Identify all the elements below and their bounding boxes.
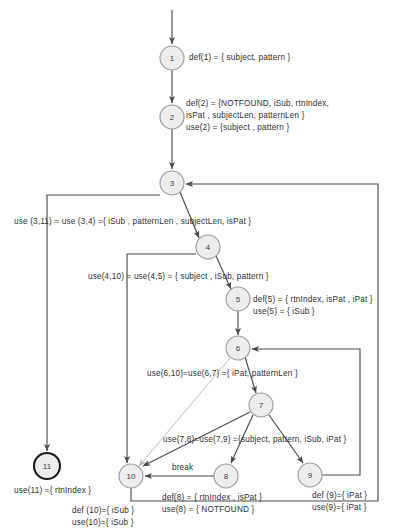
edge-4-to-10 [127, 254, 196, 463]
cfg-canvas: 1 2 3 4 5 6 7 8 [0, 0, 397, 532]
node-9-label: 9 [308, 471, 313, 480]
annotation-use-2: use(2) = {subject , pattern } [186, 122, 289, 134]
node-4-label: 4 [206, 243, 211, 252]
node-6-label: 6 [236, 344, 241, 353]
node-6[interactable]: 6 [226, 336, 250, 360]
node-2-label: 2 [170, 113, 175, 122]
node-11-label: 11 [43, 462, 52, 471]
annotation-def-5: def(5) = { rtnIndex, isPat , iPat } [253, 294, 373, 306]
edge-3-to-4 [180, 192, 199, 238]
annotation-def-8: def(8) = { rtnIndex , isPat } [162, 492, 262, 504]
annotation-use-10: use(10)={ iSub } [72, 517, 134, 529]
node-5-label: 5 [236, 295, 241, 304]
node-9[interactable]: 9 [298, 463, 322, 487]
node-3[interactable]: 3 [160, 171, 184, 195]
node-11[interactable]: 11 [34, 453, 60, 479]
node-8-label: 8 [224, 472, 229, 481]
control-flow-graph: 1 2 3 4 5 6 7 8 [0, 0, 397, 532]
annotation-use-7-8: use(7,8)=use(7,9) ={subject, pattern, iS… [163, 434, 346, 446]
node-4[interactable]: 4 [196, 235, 220, 259]
annotation-use-11: use(11) ={ rtnIndex } [14, 485, 91, 497]
annotation-def-2-cont: isPat , subjectLen, patternLen } [186, 110, 305, 122]
edge-3-to-11 [47, 195, 160, 451]
node-8[interactable]: 8 [214, 464, 238, 488]
annotation-use-3-11: use (3,11) = use (3,4) ={ iSub , pattern… [14, 216, 251, 228]
node-1-label: 1 [170, 54, 175, 63]
node-5[interactable]: 5 [226, 287, 250, 311]
annotation-use-9: use(9)={ iPat } [312, 502, 367, 514]
annotation-def-10: def (10)={ iSub } [72, 505, 134, 517]
annotation-use-8: use(8) = { NOTFOUND } [162, 504, 254, 516]
annotation-use-5: use(5) = { iSub } [253, 306, 315, 318]
node-10[interactable]: 10 [119, 464, 143, 488]
annotation-use-6-10: use(6,10)=use(6,7) ={ iPat, patternLen } [147, 368, 298, 380]
node-1[interactable]: 1 [160, 46, 184, 70]
node-10-label: 10 [127, 472, 136, 481]
node-7-label: 7 [259, 401, 264, 410]
annotation-def-2: def(2) = {NOTFOUND, iSub, rtnIndex, [186, 98, 329, 110]
node-2[interactable]: 2 [160, 105, 184, 129]
annotation-break: break [172, 462, 193, 474]
node-3-label: 3 [170, 179, 175, 188]
annotation-def-1: def(1) = { subject, pattern } [189, 52, 290, 64]
annotation-def-9: def (9)={ iPat } [312, 490, 367, 502]
annotation-use-4-10: use(4,10) = use(4,5) = { subject , iSub,… [88, 271, 269, 283]
node-7[interactable]: 7 [249, 393, 273, 417]
